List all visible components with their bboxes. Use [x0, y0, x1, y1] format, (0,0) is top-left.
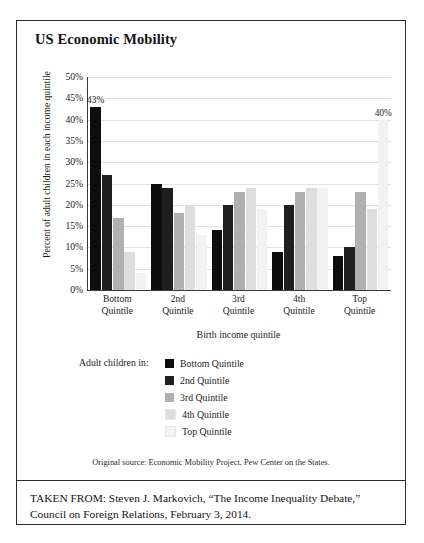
- x-axis-tick: 4thQuintile: [269, 293, 330, 316]
- y-axis-tick: 10%: [65, 243, 83, 253]
- bar: [136, 273, 147, 290]
- x-axis-tick-line: Quintile: [148, 305, 209, 317]
- bar: [355, 192, 366, 290]
- legend-item[interactable]: 3rd Quintile: [165, 389, 244, 406]
- legend-swatch-icon: [165, 359, 174, 368]
- legend-label: 2nd Quintile: [180, 375, 229, 386]
- bar: [272, 252, 283, 290]
- legend-label: 4th Quintile: [182, 409, 229, 420]
- source-note: Original source: Economic Mobility Proje…: [17, 458, 405, 467]
- footer-divider: [17, 480, 405, 481]
- x-axis-tick-labels: BottomQuintile2ndQuintile3rdQuintile4thQ…: [87, 293, 390, 316]
- y-axis-tick: 5%: [70, 264, 83, 274]
- bar-group: [209, 77, 270, 290]
- bar: [306, 188, 317, 290]
- y-axis-tick: 50%: [65, 72, 83, 82]
- y-axis-tick: 0%: [70, 285, 83, 295]
- bar: [378, 120, 389, 290]
- bar: [333, 256, 344, 290]
- legend-label: Top Quintile: [182, 426, 232, 437]
- y-axis-tick: 15%: [65, 221, 83, 231]
- bar: [124, 252, 135, 290]
- x-axis-tick-line: Quintile: [208, 305, 269, 317]
- x-axis-tick-line: Quintile: [269, 305, 330, 317]
- plot-area: 43%40%: [87, 77, 391, 291]
- bar-group: [149, 77, 210, 290]
- y-axis-tick: 45%: [65, 94, 83, 104]
- x-axis-tick-line: Quintile: [87, 305, 148, 317]
- legend-swatch-icon: [165, 426, 176, 437]
- bar-data-label: 40%: [375, 108, 392, 118]
- figure-frame: US Economic Mobility Percent of adult ch…: [16, 20, 406, 525]
- bar: [196, 235, 207, 290]
- legend-label: Bottom Quintile: [180, 358, 244, 369]
- x-axis-tick-line: Top: [329, 293, 390, 305]
- y-axis-tick: 40%: [65, 115, 83, 125]
- x-axis-tick: BottomQuintile: [87, 293, 148, 316]
- y-axis-tick-labels: 50%45%40%35%30%25%20%15%10%5%0%: [53, 77, 83, 290]
- legend-caption: Adult children in:: [79, 357, 149, 368]
- taken-from-citation: TAKEN FROM: Steven J. Markovich, “The In…: [30, 491, 396, 522]
- bar: [113, 218, 124, 290]
- bar: [174, 213, 185, 290]
- bar: [295, 192, 306, 290]
- y-axis-tick: 30%: [65, 157, 83, 167]
- bar-group: [88, 77, 149, 290]
- bar: [90, 107, 101, 290]
- bar: [151, 184, 162, 291]
- bar: [257, 209, 268, 290]
- figure-title: US Economic Mobility: [35, 31, 177, 48]
- x-axis-tick: 2ndQuintile: [148, 293, 209, 316]
- legend-swatch-icon: [165, 409, 176, 420]
- x-axis-title: Birth income quintile: [87, 329, 390, 340]
- x-axis-tick: TopQuintile: [329, 293, 390, 316]
- legend-item[interactable]: Top Quintile: [165, 423, 244, 440]
- legend-swatch-icon: [165, 376, 174, 385]
- x-axis-tick-line: Bottom: [87, 293, 148, 305]
- bar-group: [270, 77, 331, 290]
- legend-swatch-icon: [165, 393, 174, 402]
- x-axis-tick-line: Quintile: [329, 305, 390, 317]
- bar: [185, 205, 196, 290]
- y-axis-tick: 35%: [65, 136, 83, 146]
- y-axis-tick: 20%: [65, 200, 83, 210]
- legend-label: 3rd Quintile: [180, 392, 228, 403]
- bar: [246, 188, 257, 290]
- bar: [102, 175, 113, 290]
- bar: [367, 209, 378, 290]
- bar: [284, 205, 295, 290]
- bar: [344, 247, 355, 290]
- legend-item[interactable]: 2nd Quintile: [165, 372, 244, 389]
- y-axis-title: Percent of adult children in each income…: [41, 57, 52, 272]
- legend-items: Bottom Quintile2nd Quintile3rd Quintile4…: [165, 355, 244, 440]
- y-axis-tick: 25%: [65, 179, 83, 189]
- bar-data-label: 43%: [87, 95, 104, 105]
- bar: [234, 192, 245, 290]
- x-axis-tick-line: 3rd: [208, 293, 269, 305]
- x-axis-tick-line: 4th: [269, 293, 330, 305]
- bar: [162, 188, 173, 290]
- legend-item[interactable]: 4th Quintile: [165, 406, 244, 423]
- bar-chart: Percent of adult children in each income…: [17, 67, 405, 327]
- bar-series-layer: [88, 77, 391, 290]
- bar: [212, 230, 223, 290]
- x-axis-tick-line: 2nd: [148, 293, 209, 305]
- legend-item[interactable]: Bottom Quintile: [165, 355, 244, 372]
- bar: [223, 205, 234, 290]
- x-axis-tick: 3rdQuintile: [208, 293, 269, 316]
- bar: [317, 188, 328, 290]
